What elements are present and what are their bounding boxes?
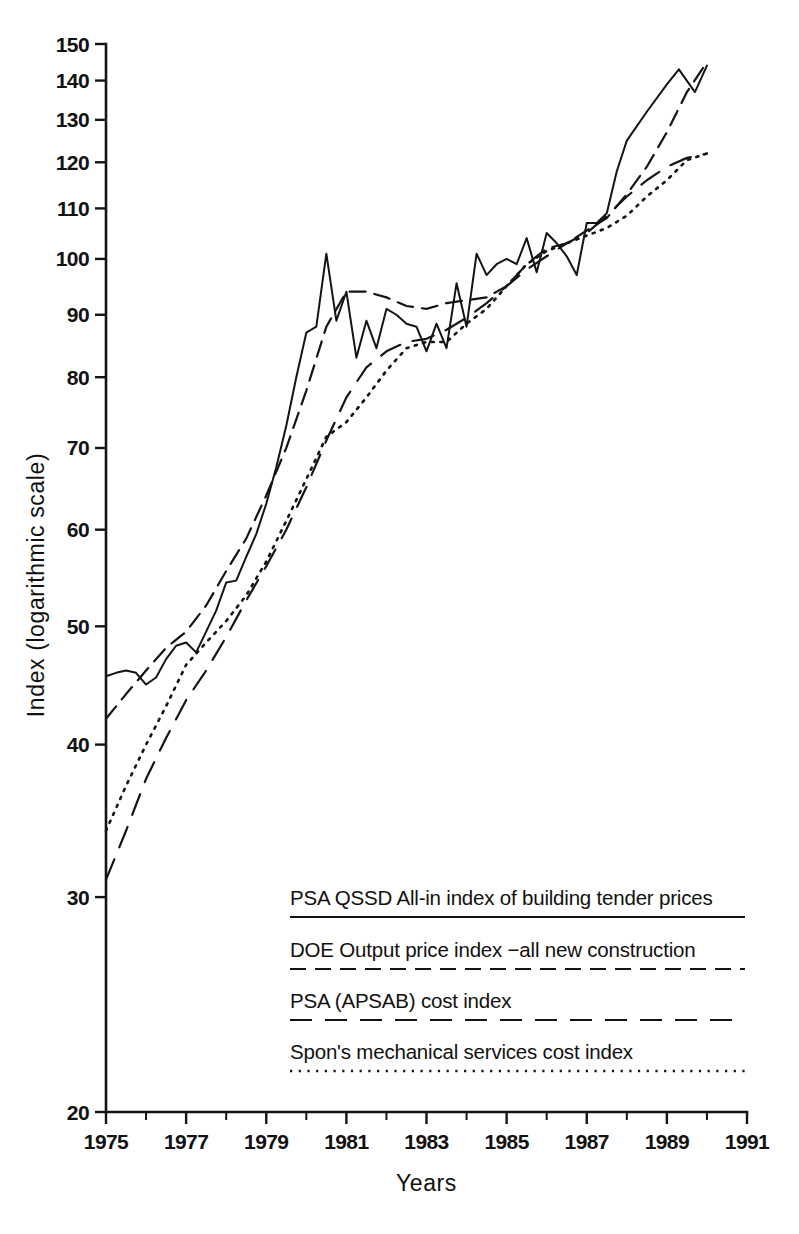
x-tick-label: 1985 (484, 1130, 529, 1153)
x-tick-label: 1981 (324, 1130, 369, 1153)
y-tick-label: 20 (67, 1101, 89, 1124)
x-tick-label: 1987 (565, 1130, 609, 1153)
y-axis-title: Index (logarithmic scale) (23, 453, 49, 717)
series-line-4 (106, 154, 707, 831)
y-tick-label: 40 (67, 733, 89, 756)
line-chart: 2030405060708090100110120130140150 19751… (0, 0, 799, 1234)
legend-label: Spon's mechanical services cost index (290, 1040, 634, 1063)
x-tick-label: 1975 (84, 1130, 129, 1153)
series-line-1 (106, 66, 707, 685)
chart-legend: PSA QSSD All-in index of building tender… (290, 886, 745, 1071)
legend-label: PSA QSSD All-in index of building tender… (290, 886, 712, 909)
y-axis-ticks: 2030405060708090100110120130140150 (56, 33, 106, 1124)
y-tick-label: 30 (67, 886, 89, 909)
x-tick-label: 1989 (645, 1130, 689, 1153)
x-tick-label: 1983 (404, 1130, 448, 1153)
legend-label: DOE Output price index −all new construc… (290, 938, 695, 961)
x-axis-title: Years (396, 1170, 457, 1196)
series-layer (106, 62, 707, 880)
y-tick-label: 70 (67, 436, 89, 459)
x-axis-ticks: 197519771979198119831985198719891991 (84, 1112, 770, 1153)
y-tick-label: 150 (56, 33, 89, 56)
x-tick-label: 1991 (725, 1130, 770, 1153)
series-line-2 (106, 62, 707, 719)
legend-entry: PSA QSSD All-in index of building tender… (290, 886, 745, 917)
legend-entry: PSA (APSAB) cost index (290, 989, 745, 1020)
y-tick-label: 120 (56, 151, 89, 174)
legend-entry: DOE Output price index −all new construc… (290, 938, 745, 969)
y-tick-label: 140 (56, 69, 89, 92)
y-tick-label: 100 (56, 247, 89, 270)
y-tick-label: 110 (57, 197, 89, 220)
y-tick-label: 90 (67, 303, 89, 326)
y-tick-label: 130 (56, 108, 89, 131)
y-tick-label: 60 (67, 518, 89, 541)
legend-entry: Spon's mechanical services cost index (290, 1040, 745, 1071)
legend-label: PSA (APSAB) cost index (290, 989, 512, 1012)
x-tick-label: 1977 (164, 1130, 208, 1153)
y-tick-label: 80 (67, 366, 89, 389)
x-tick-label: 1979 (244, 1130, 288, 1153)
y-tick-label: 50 (67, 615, 89, 638)
series-line-3 (106, 154, 707, 880)
chart-figure: 2030405060708090100110120130140150 19751… (0, 0, 799, 1234)
